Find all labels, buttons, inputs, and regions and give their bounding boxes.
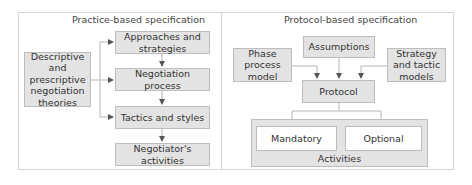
negotiator-activities-box: Negotiator's activities: [115, 143, 210, 166]
approaches-strategies-box: Approaches and strategies: [115, 31, 210, 54]
strategy-tactic-models-box: Strategy and tactic models: [387, 48, 446, 82]
assumptions-box: Assumptions: [303, 36, 375, 58]
mandatory-box: Mandatory: [256, 126, 337, 151]
protocol-based-title: Protocol-based specification: [284, 14, 396, 25]
tactics-styles-box: Tactics and styles: [115, 106, 210, 129]
activities-label: Activities: [251, 153, 428, 164]
protocol-box: Protocol: [302, 80, 375, 103]
optional-box: Optional: [345, 126, 422, 151]
theories-box: Descriptive and prescriptive negotiation…: [24, 52, 91, 107]
phase-process-model-box: Phase process model: [233, 48, 292, 82]
practice-based-title: Practice-based specification: [72, 14, 188, 25]
negotiation-process-box: Negotiation process: [115, 68, 210, 91]
